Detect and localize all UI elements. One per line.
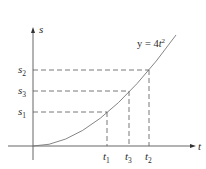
s2-label: s2 [18,63,26,78]
x-axis-label: t [198,140,202,152]
t1-label: t1 [103,150,110,165]
s3-label: s3 [18,84,26,99]
position-time-diagram: s t y = 4t2 s2 s3 s1 t1 t3 t2 [0,0,206,169]
t2-label: t2 [145,150,152,165]
s1-label: s1 [18,105,26,120]
equation-label: y = 4t2 [137,37,166,49]
y-axis-label: s [39,23,43,35]
t3-label: t3 [125,150,132,165]
parabola-curve [33,35,176,146]
x-axis-arrow-icon [190,144,196,148]
y-axis-arrow-icon [31,27,35,33]
